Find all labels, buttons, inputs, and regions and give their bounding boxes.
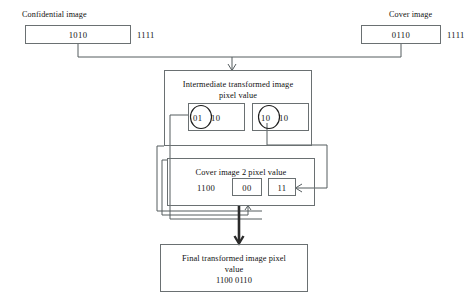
confidential-image-caption: Confidential image <box>22 10 87 20</box>
cover-image-trailing-value: 1111 <box>447 30 464 40</box>
cover-image-2-boxed-value-2: 11 <box>268 183 296 193</box>
intermediate-right-circled-value: 10 <box>261 113 270 123</box>
cover-image-boxed-value: 0110 <box>361 30 441 40</box>
cover-image-2-boxed-value-1: 00 <box>232 183 262 193</box>
diagram-canvas: Confidential image 1010 1111 Cover image… <box>0 0 464 302</box>
intermediate-left-rest-value: 10 <box>211 113 220 123</box>
cover-image-2-title: Cover image 2 pixel value <box>168 168 314 179</box>
intermediate-title-line1: Intermediate transformed image <box>165 80 311 91</box>
intermediate-left-circled-value: 01 <box>193 113 202 123</box>
intermediate-right-rest-value: 10 <box>279 113 288 123</box>
confidential-image-boxed-value: 1010 <box>25 30 131 40</box>
cover-image-caption: Cover image <box>389 10 432 20</box>
intermediate-title-line2: pixel value <box>165 91 311 102</box>
final-value: 1100 0110 <box>161 276 307 287</box>
final-title-line1: Final transformed image pixel <box>161 254 307 265</box>
cover-image-2-plain-value: 1100 <box>197 183 215 193</box>
connector-confidential-to-bus <box>78 44 232 57</box>
final-title-line2: value <box>161 265 307 276</box>
final-transformed-box: Final transformed image pixel value 1100… <box>160 244 308 292</box>
connector-cover-to-bus <box>232 44 401 57</box>
confidential-image-trailing-value: 1111 <box>137 30 155 40</box>
